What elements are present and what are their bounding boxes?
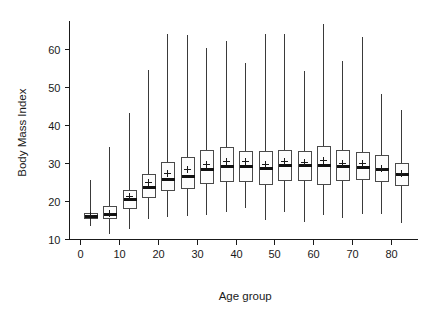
y-tick-label: 60 — [48, 44, 60, 56]
y-tick-label: 20 — [48, 196, 60, 208]
boxplot-group — [124, 113, 137, 229]
boxplot-group — [182, 35, 195, 216]
x-axis-title: Age group — [219, 290, 272, 302]
y-tick-label: 50 — [48, 82, 60, 94]
x-tick-label: 40 — [230, 248, 242, 260]
x-tick-label: 50 — [268, 248, 280, 260]
y-tick-label: 40 — [48, 120, 60, 132]
boxplot-group — [240, 63, 253, 208]
y-tick-label: 30 — [48, 158, 60, 170]
boxplot-group — [357, 37, 370, 214]
x-tick-label: 0 — [77, 248, 83, 260]
boxplot-group — [299, 71, 312, 222]
boxplot-group — [221, 41, 234, 212]
x-tick-label: 30 — [191, 248, 203, 260]
boxplot-chart: 10203040506001020304050607080Age groupBo… — [0, 0, 437, 315]
y-tick-label: 10 — [48, 234, 60, 246]
boxplot-group — [376, 94, 389, 214]
boxplot-group — [201, 48, 214, 215]
x-tick-label: 10 — [113, 248, 125, 260]
boxplot-group — [318, 24, 331, 215]
y-axis-title: Body Mass Index — [16, 88, 28, 176]
boxplot-group — [260, 34, 273, 220]
boxplot-group — [104, 147, 117, 234]
x-tick-label: 80 — [385, 248, 397, 260]
boxplot-group — [162, 34, 175, 217]
x-tick-label: 60 — [307, 248, 319, 260]
boxplot-group — [337, 61, 350, 218]
plot-canvas: 10203040506001020304050607080Age groupBo… — [0, 0, 437, 315]
boxplot-group — [143, 70, 156, 219]
boxplot-group — [279, 34, 292, 212]
x-tick-label: 70 — [346, 248, 358, 260]
x-tick-label: 20 — [152, 248, 164, 260]
boxplot-group — [85, 180, 98, 226]
boxplot-group — [396, 110, 409, 223]
